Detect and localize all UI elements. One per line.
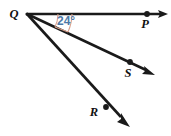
geometry-figure: Q P S R 24° (0, 0, 171, 136)
point-s-dot (127, 59, 133, 65)
point-r-dot (103, 104, 109, 110)
label-point-p: P (141, 17, 149, 31)
label-point-s: S (125, 66, 132, 80)
ray-qr-line (27, 14, 121, 117)
ray-qs-arrowhead (142, 66, 155, 75)
label-point-q: Q (9, 7, 18, 21)
point-q-vertex (25, 12, 28, 15)
label-point-r: R (89, 105, 98, 119)
label-angle-measure: 24° (57, 14, 75, 28)
